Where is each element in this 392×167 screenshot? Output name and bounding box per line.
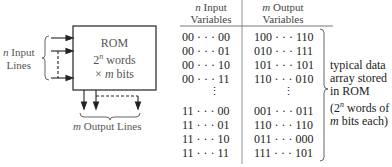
table-cell: 110 · · · 110 <box>254 118 314 132</box>
table-cell: 11 · · · 01 <box>182 118 230 132</box>
table-cell: 100 · · · 110 <box>254 30 314 44</box>
input-ellipsis: ⋮ <box>209 86 220 97</box>
table-cell: 11 · · · 10 <box>182 132 230 146</box>
rom-words: 2n words <box>73 50 156 67</box>
table-cell: 11 · · · 11 <box>182 146 230 160</box>
table-cell: 010 · · · 111 <box>254 44 314 58</box>
output-variables-header: m Output Variables <box>246 1 320 25</box>
table-cell: 111 · · · 101 <box>254 146 314 160</box>
output-ellipsis: ⋮ <box>283 86 294 97</box>
table-cell: 00 · · · 00 <box>182 30 230 44</box>
table-brace <box>320 29 328 161</box>
input-column-bottom: 11 · · · 00 11 · · · 01 11 · · · 10 11 ·… <box>182 104 230 160</box>
rom-annotation: typical data array stored in ROM (2n wor… <box>330 59 389 128</box>
table-cell: 110 · · · 010 <box>254 72 314 86</box>
input-column-top: 00 · · · 00 00 · · · 01 00 · · · 10 00 ·… <box>182 30 230 86</box>
table-cell: 11 · · · 00 <box>182 104 230 118</box>
table-cell: 00 · · · 01 <box>182 44 230 58</box>
input-arrows <box>51 36 73 81</box>
input-brace <box>42 36 49 80</box>
table-cell: 00 · · · 11 <box>182 72 230 86</box>
rom-label: ROM 2n words × m bits <box>73 36 156 81</box>
output-column-bottom: 001 · · · 011 110 · · · 110 011 · · · 00… <box>254 104 314 160</box>
output-brace <box>80 113 140 120</box>
output-column-top: 100 · · · 110 010 · · · 111 101 · · · 10… <box>254 30 314 86</box>
output-arrows <box>82 90 141 109</box>
rom-bits: × m bits <box>73 67 156 81</box>
output-lines-label: m Output Lines <box>73 120 141 132</box>
rom-title: ROM <box>73 36 156 50</box>
table-cell: 101 · · · 101 <box>254 58 314 72</box>
table-cell: 011 · · · 000 <box>254 132 314 146</box>
input-variables-header: n Input Variables <box>180 1 242 25</box>
table-cell: 001 · · · 011 <box>254 104 314 118</box>
table-cell: 00 · · · 10 <box>182 58 230 72</box>
input-lines-label: n Input Lines <box>3 46 34 72</box>
